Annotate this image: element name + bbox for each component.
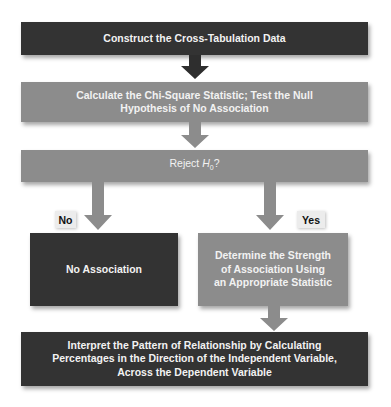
decision-label: Reject H0? — [169, 157, 219, 175]
step-chi-square-line2: Hypothesis of No Association — [120, 102, 268, 116]
outcome-no-association: No Association — [30, 233, 178, 306]
arrow-down-icon — [259, 306, 289, 331]
arrow-down-no-icon — [83, 182, 113, 230]
decision-reject-h0: Reject H0? — [21, 150, 368, 182]
outcome-determine-strength: Determine the Strength of Association Us… — [198, 233, 348, 306]
step-chi-square-line1: Calculate the Chi-Square Statistic; Test… — [76, 89, 313, 103]
step-construct-label: Construct the Cross-Tabulation Data — [103, 32, 285, 46]
branch-yes-label: Yes — [297, 211, 325, 228]
branch-no-label: No — [55, 211, 76, 228]
arrow-down-yes-icon — [255, 182, 285, 230]
arrow-down-icon — [180, 122, 210, 148]
step-chi-square: Calculate the Chi-Square Statistic; Test… — [21, 82, 368, 122]
step-construct-crosstab: Construct the Cross-Tabulation Data — [21, 22, 368, 55]
arrow-down-icon — [180, 55, 210, 79]
step-interpret-pattern: Interpret the Pattern of Relationship by… — [21, 332, 368, 386]
